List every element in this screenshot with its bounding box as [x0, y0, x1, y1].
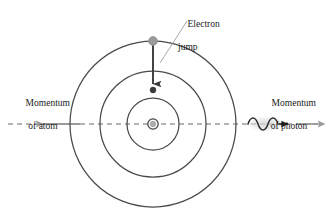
momentum-of-photon-label-line2: of photon	[252, 121, 326, 133]
electron-start-dot-icon	[149, 37, 158, 46]
electron-jump-label: Electron jump	[178, 7, 220, 76]
momentum-of-photon-label-line1: Momentum	[272, 98, 316, 108]
electron-jump-label-line2: jump	[178, 42, 220, 54]
electron-jump-label-line1: Electron	[188, 19, 220, 29]
momentum-of-atom-label-line2: of atom	[6, 121, 80, 133]
momentum-of-atom-label-line1: Momentum	[26, 98, 70, 108]
momentum-of-photon-label: Momentum of photon	[252, 86, 326, 155]
nucleus-core-icon	[150, 121, 155, 126]
momentum-of-atom-label: Momentum of atom	[6, 86, 80, 155]
electron-end-dot-icon	[150, 87, 156, 93]
atom-momentum-figure: Electron jump Momentum of atom Momentum …	[0, 0, 329, 218]
